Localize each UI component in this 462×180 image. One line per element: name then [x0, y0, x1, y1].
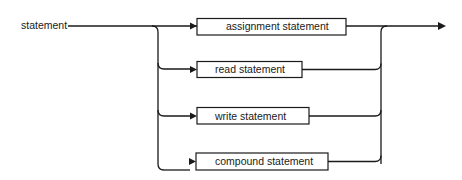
box-write-statement: write statement — [197, 108, 309, 125]
branch-to-write — [158, 110, 191, 116]
box-label: write statement — [214, 110, 286, 122]
merge-from-compound — [328, 156, 381, 162]
merge-right-rail — [381, 26, 387, 164]
arrow-icon — [190, 23, 197, 30]
branch-left-rail — [152, 26, 164, 170]
branch-to-read — [158, 63, 191, 69]
box-label: compound statement — [215, 155, 313, 167]
arrow-icon — [189, 158, 196, 165]
merge-from-write — [309, 110, 381, 116]
box-read-statement: read statement — [197, 62, 302, 78]
arrow-icon — [190, 66, 197, 73]
syntax-diagram: statement assignment statement read stat… — [0, 0, 462, 180]
arrow-icon — [190, 113, 197, 120]
box-label: assignment statement — [226, 20, 329, 32]
box-assignment-statement: assignment statement — [197, 19, 346, 36]
entry-label: statement — [21, 19, 67, 31]
exit-arrow-icon — [438, 22, 446, 30]
box-label: read statement — [215, 63, 285, 75]
merge-from-read — [302, 64, 381, 70]
box-compound-statement: compound statement — [196, 153, 328, 170]
